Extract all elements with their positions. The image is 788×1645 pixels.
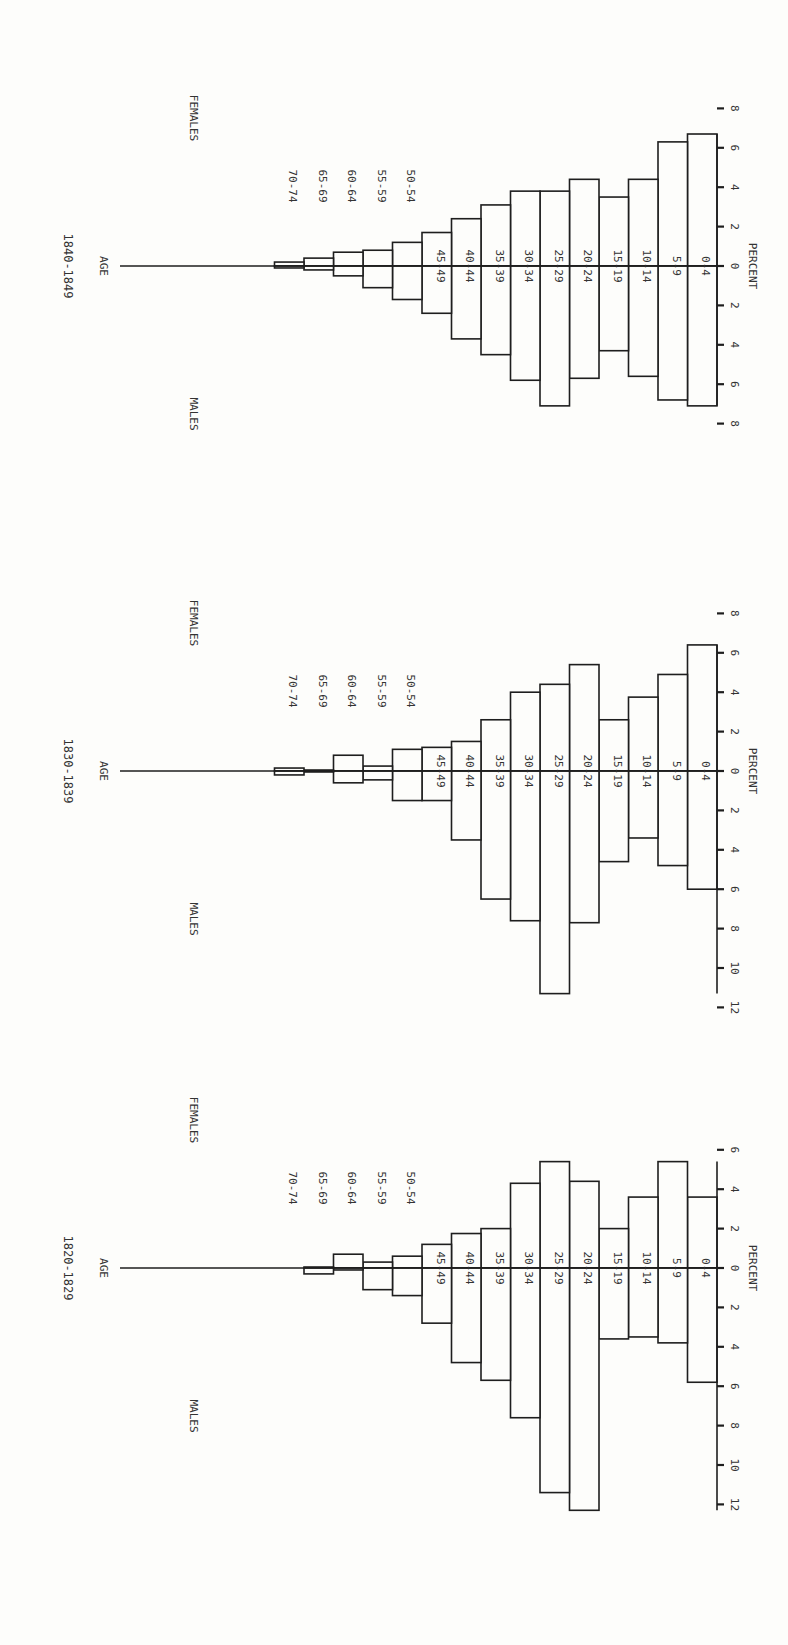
bar-female-55-59	[363, 1262, 393, 1268]
bar-male-20-24	[570, 771, 600, 923]
age-group-label: 40-44	[463, 754, 476, 787]
tick-label: 0	[728, 1265, 741, 1272]
males-label: MALES	[187, 397, 200, 430]
bar-female-60-64	[334, 252, 364, 266]
pyramid-panel-1830-1839: 0246824681012PERCENT0-45-910-1415-1920-2…	[61, 600, 759, 1014]
bar-female-60-64	[334, 1254, 364, 1268]
age-group-label: 30-34	[522, 1251, 535, 1284]
tick-label: 6	[728, 144, 741, 151]
bar-male-30-34	[511, 771, 541, 921]
bar-male-55-59	[363, 266, 393, 288]
age-group-label: 30-34	[522, 249, 535, 282]
bar-female-5-9	[658, 142, 688, 266]
tick-label: 0	[728, 263, 741, 270]
bar-female-65-69	[304, 258, 334, 266]
age-group-label: 15-19	[611, 754, 624, 787]
bar-male-55-59	[363, 1268, 393, 1290]
tick-label: 4	[728, 1186, 741, 1193]
bar-female-5-9	[658, 1162, 688, 1268]
tick-label: 2	[728, 1225, 741, 1232]
age-group-label: 45-49	[434, 754, 447, 787]
age-group-label: 60-64	[345, 674, 358, 707]
bar-male-5-9	[658, 1268, 688, 1343]
age-group-label: 65-69	[316, 674, 329, 707]
pyramid-panel-1840-1849: 024682468PERCENT0-45-910-1415-1920-2425-…	[61, 95, 759, 431]
bar-male-5-9	[658, 771, 688, 866]
males-label: MALES	[187, 1399, 200, 1432]
bar-male-55-59	[363, 771, 393, 780]
tick-label: 6	[728, 886, 741, 893]
age-group-label: 45-49	[434, 1251, 447, 1284]
bar-female-50-54	[393, 749, 423, 771]
age-group-label: 10-14	[640, 1251, 653, 1284]
males-label: MALES	[187, 902, 200, 935]
bar-male-30-34	[511, 1268, 541, 1418]
panel-title: 1830-1839	[61, 738, 75, 803]
age-group-label: 50-54	[404, 674, 417, 707]
tick-label: 6	[728, 1383, 741, 1390]
bar-male-25-29	[540, 771, 570, 994]
tick-label: 2	[728, 728, 741, 735]
panel-title: 1820-1829	[61, 1235, 75, 1300]
age-group-label: 10-14	[640, 754, 653, 787]
bar-female-0-4	[688, 645, 718, 771]
age-group-label: 0-4	[699, 761, 712, 781]
tick-label: 0	[728, 768, 741, 775]
bar-male-25-29	[540, 266, 570, 406]
chart-canvas: 024682468PERCENT0-45-910-1415-1920-2425-…	[0, 0, 788, 1645]
tick-label: 10	[728, 1458, 741, 1471]
females-label: FEMALES	[187, 95, 200, 141]
females-label: FEMALES	[187, 600, 200, 646]
age-group-label: 25-29	[552, 1251, 565, 1284]
tick-label: 6	[728, 1146, 741, 1153]
pyramid-panel-1820-1829: 024624681012PERCENT0-45-910-1415-1920-24…	[61, 1097, 759, 1511]
age-group-label: 50-54	[404, 1171, 417, 1204]
bar-female-60-64	[334, 755, 364, 771]
age-axis-label: AGE	[97, 256, 110, 276]
bar-male-60-64	[334, 771, 364, 783]
bar-male-20-24	[570, 266, 600, 378]
age-group-label: 25-29	[552, 249, 565, 282]
age-group-label: 60-64	[345, 169, 358, 202]
age-group-label: 5-9	[670, 1258, 683, 1278]
bars	[275, 645, 718, 994]
tick-label: 4	[728, 1343, 741, 1350]
bar-male-35-39	[481, 771, 511, 899]
percent-axis-label: PERCENT	[746, 1245, 759, 1292]
bar-male-60-64	[334, 266, 364, 276]
tick-label: 2	[728, 302, 741, 309]
age-group-label: 15-19	[611, 249, 624, 282]
percent-axis-label: PERCENT	[746, 748, 759, 795]
age-group-label: 15-19	[611, 1251, 624, 1284]
tick-label: 8	[728, 420, 741, 427]
bar-male-35-39	[481, 1268, 511, 1380]
age-group-label: 25-29	[552, 754, 565, 787]
bar-male-0-4	[688, 266, 718, 406]
age-group-label: 0-4	[699, 256, 712, 276]
panel-title: 1840-1849	[61, 233, 75, 298]
tick-label: 8	[728, 925, 741, 932]
bar-male-50-54	[393, 266, 423, 299]
age-group-label: 40-44	[463, 1251, 476, 1284]
percent-axis-label: PERCENT	[746, 243, 759, 290]
bar-male-50-54	[393, 771, 423, 801]
age-group-label: 20-24	[581, 249, 594, 282]
tick-label: 2	[728, 807, 741, 814]
age-group-label: 55-59	[375, 674, 388, 707]
age-group-label: 35-39	[493, 249, 506, 282]
age-group-label: 10-14	[640, 249, 653, 282]
tick-label: 4	[728, 689, 741, 696]
bar-male-20-24	[570, 1268, 600, 1510]
age-group-label: 70-74	[286, 169, 299, 202]
age-group-label: 5-9	[670, 761, 683, 781]
age-group-label: 65-69	[316, 1171, 329, 1204]
tick-label: 12	[728, 1498, 741, 1511]
age-group-label: 20-24	[581, 754, 594, 787]
age-group-label: 35-39	[493, 1251, 506, 1284]
bar-male-50-54	[393, 1268, 423, 1296]
age-axis-label: AGE	[97, 1258, 110, 1278]
tick-label: 4	[728, 846, 741, 853]
bars	[304, 1162, 717, 1511]
age-group-label: 65-69	[316, 169, 329, 202]
bar-male-0-4	[688, 1268, 718, 1382]
